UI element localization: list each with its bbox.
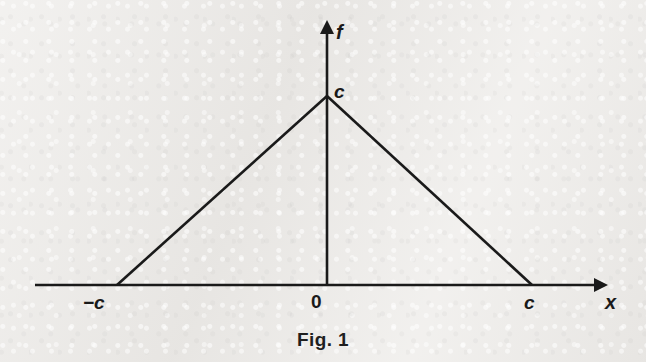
origin-label: 0 [311,292,322,311]
x-axis-arrowhead-icon [594,278,608,292]
left-root-label: −c [83,293,105,312]
y-axis-label: f [336,22,343,42]
function-left-limb [117,96,327,285]
right-root-label: c [524,293,535,312]
x-axis-label: x [605,292,616,312]
peak-value-label: c [334,82,345,101]
function-right-limb [327,96,532,285]
figure-page: f c −c 0 c x Fig. 1 [0,0,646,362]
figure-caption: Fig. 1 [0,329,646,351]
y-axis-arrowhead-icon [320,20,334,34]
